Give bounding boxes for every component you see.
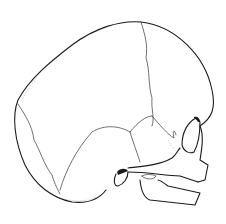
zygomatic-lower bbox=[128, 172, 198, 182]
shading bbox=[22, 62, 198, 201]
sphenoid-suture bbox=[130, 116, 152, 162]
tooth-bud bbox=[142, 175, 156, 180]
zygomatic-arch bbox=[128, 148, 180, 168]
orbit bbox=[182, 118, 200, 153]
coronal-suture bbox=[141, 22, 153, 126]
skull-drawing bbox=[0, 0, 226, 224]
cranium-outline bbox=[15, 22, 214, 203]
lambdoid-suture bbox=[18, 104, 60, 194]
frontal-suture-lower bbox=[152, 116, 176, 138]
mastoid bbox=[114, 172, 128, 186]
ear-opening bbox=[117, 169, 128, 175]
squamosal-suture bbox=[60, 127, 130, 190]
mandible bbox=[140, 180, 200, 205]
orbit-shadow bbox=[194, 117, 200, 122]
